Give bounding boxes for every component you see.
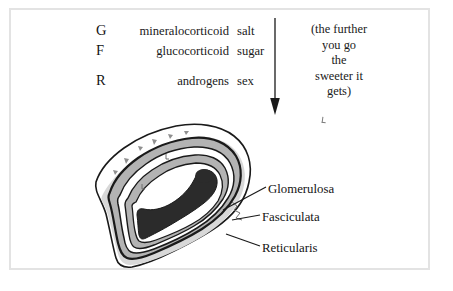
note-line-3: the <box>283 53 395 69</box>
mnemonic-row: G mineralocorticoid salt <box>96 22 271 42</box>
note-line-2: you go <box>283 38 395 54</box>
cropped-caption-remnant <box>86 283 246 291</box>
leader-fasciculata <box>232 215 260 220</box>
label-fasciculata: Fasciculata <box>262 210 320 225</box>
down-arrow-icon <box>268 18 282 116</box>
mnemonic-letter-r: R <box>96 72 116 89</box>
mnemonic-block: G mineralocorticoid salt F glucocorticoi… <box>96 22 271 92</box>
figure-canvas: G mineralocorticoid salt F glucocorticoi… <box>0 0 453 291</box>
leader-glomerulosa <box>223 187 266 210</box>
label-glomerulosa: Glomerulosa <box>268 182 334 197</box>
mnemonic-row: R androgens sex <box>96 72 271 92</box>
mnemonic-effect-sugar: sugar <box>237 44 271 59</box>
note-line-1: (the further <box>283 22 395 38</box>
note-line-4: sweeter it <box>283 69 395 85</box>
note-line-5: gets) <box>283 84 395 100</box>
mnemonic-hormone-androgens: androgens <box>116 74 237 89</box>
mnemonic-letter-f: F <box>96 42 116 59</box>
mnemonic-letter-g: G <box>96 22 116 39</box>
label-reticularis: Reticularis <box>262 241 317 256</box>
mnemonic-hormone-glucocorticoid: glucocorticoid <box>116 44 237 59</box>
mnemonic-effect-salt: salt <box>237 24 271 39</box>
mnemonic-hormone-mineralocorticoid: mineralocorticoid <box>116 24 237 39</box>
stray-pen-mark <box>322 117 327 123</box>
mnemonic-row: F glucocorticoid sugar <box>96 42 271 62</box>
gradient-note: (the further you go the sweeter it gets) <box>283 22 395 100</box>
leader-reticularis <box>226 234 260 246</box>
mnemonic-effect-sex: sex <box>237 74 271 89</box>
